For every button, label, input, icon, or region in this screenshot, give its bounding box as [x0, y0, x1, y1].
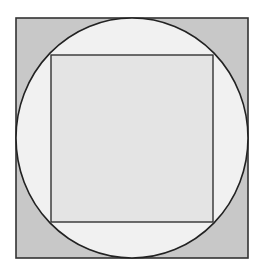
inner-square	[51, 55, 213, 222]
inscribed-shapes-diagram	[0, 0, 261, 274]
geometry-figure	[0, 0, 261, 274]
